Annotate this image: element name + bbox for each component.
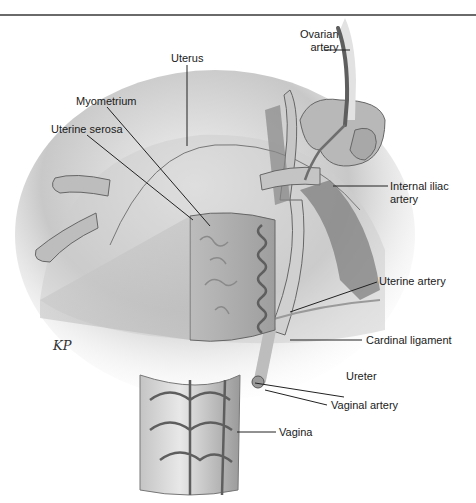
label-internal-iliac-line2: artery: [390, 193, 449, 206]
label-internal-iliac-artery: Internal iliac artery: [390, 180, 449, 206]
label-vaginal-artery: Vaginal artery: [331, 399, 398, 412]
label-uterus: Uterus: [171, 52, 203, 65]
artist-signature: KP: [53, 338, 71, 353]
label-vagina: Vagina: [279, 426, 312, 439]
label-cardinal-ligament: Cardinal ligament: [366, 334, 452, 347]
label-myometrium: Myometrium: [76, 95, 137, 108]
label-ovarian-artery-line2: artery: [300, 41, 339, 54]
label-ureter: Ureter: [346, 370, 377, 383]
label-ovarian-artery: Ovarian artery: [300, 28, 339, 54]
vagina: [140, 375, 240, 495]
label-ovarian-artery-line1: Ovarian: [300, 28, 339, 41]
label-uterine-serosa: Uterine serosa: [51, 123, 123, 136]
label-uterine-artery: Uterine artery: [379, 275, 446, 288]
anatomy-illustration: [0, 0, 476, 503]
label-internal-iliac-line1: Internal iliac: [390, 180, 449, 193]
